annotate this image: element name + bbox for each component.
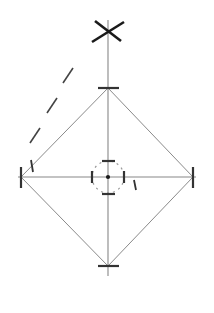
drawing-canvas bbox=[0, 0, 214, 313]
geometric-figure bbox=[0, 0, 214, 313]
center-point bbox=[106, 175, 110, 179]
